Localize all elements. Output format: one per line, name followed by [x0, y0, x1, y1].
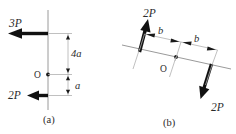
witness-line-b-left	[133, 49, 140, 69]
origin-label-b: O	[160, 64, 167, 74]
figure-svg: 3P 2P O 4a	[0, 0, 236, 134]
force-2p-arrow	[27, 91, 48, 101]
force-2p-down-label: 2P	[211, 101, 224, 113]
witness-line-b-right-upper	[212, 50, 218, 65]
dimension-a	[66, 75, 70, 96]
force-2p-up-label: 2P	[143, 7, 156, 19]
dimension-a-label: a	[75, 80, 80, 91]
panel-a: 3P 2P O 4a	[8, 10, 82, 126]
caption-a: (a)	[43, 114, 55, 126]
force-3p-arrow	[8, 28, 48, 39]
dimension-4a	[66, 34, 70, 75]
origin-label-a: O	[34, 70, 41, 80]
force-3p-label: 3P	[8, 17, 22, 29]
force-2p-up-arrow	[140, 19, 151, 52]
force-2p-down-arrow	[199, 64, 211, 99]
panel-b: 2P 2P O b	[122, 7, 231, 129]
dimension-b-right	[181, 41, 218, 50]
caption-b: (b)	[163, 117, 176, 129]
force-2p-label: 2P	[8, 89, 21, 101]
dimension-4a-label: 4a	[71, 48, 82, 59]
dimension-b-left-label: b	[158, 25, 163, 36]
figure-container: 3P 2P O 4a	[0, 0, 236, 134]
dimension-b-right-label: b	[194, 33, 199, 44]
